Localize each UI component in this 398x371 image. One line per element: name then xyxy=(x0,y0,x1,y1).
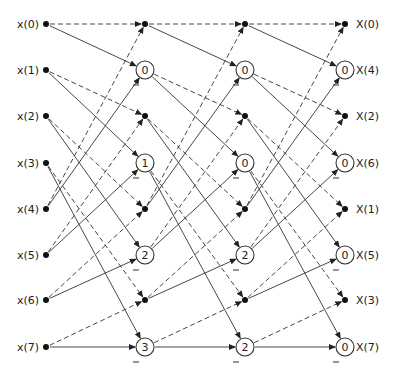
twiddle-exponent: 0 xyxy=(242,157,249,170)
node-dot xyxy=(43,206,49,212)
fft-flow-graph: 012300220000 x(0)x(1)x(2)x(3)x(4)x(5)x(6… xyxy=(0,0,398,371)
node-dot xyxy=(43,21,49,27)
input-label: x(6) xyxy=(17,294,39,307)
solid-edge xyxy=(247,119,339,247)
twiddle-exponent: 2 xyxy=(242,249,249,262)
solid-edge xyxy=(147,119,239,247)
solid-edge xyxy=(149,259,236,298)
twiddle-exponent: 2 xyxy=(242,341,249,354)
twiddle-exponent: 0 xyxy=(342,341,349,354)
dashed-edge xyxy=(151,119,243,247)
solid-edge xyxy=(149,26,236,66)
node-dot xyxy=(242,113,248,119)
dashed-edge xyxy=(50,72,142,115)
dashed-edge xyxy=(48,28,143,206)
solid-edge xyxy=(150,172,240,338)
output-label: X(2) xyxy=(356,110,379,123)
node-dot xyxy=(242,206,248,212)
solid-edge xyxy=(48,119,139,247)
output-label: X(5) xyxy=(356,249,379,262)
node-dot xyxy=(43,252,49,258)
twiddle-exponent: 0 xyxy=(342,249,349,262)
twiddle-exponent: 0 xyxy=(342,157,349,170)
output-label: X(0) xyxy=(356,18,379,31)
output-label: X(6) xyxy=(356,157,379,170)
dashed-edge xyxy=(151,171,243,297)
twiddle-exponent: 3 xyxy=(142,341,149,354)
input-label: x(2) xyxy=(17,110,39,123)
dashed-edge xyxy=(154,302,241,343)
node-dot xyxy=(142,297,148,303)
solid-edge xyxy=(147,78,239,206)
node-dot xyxy=(43,113,49,119)
input-label: x(5) xyxy=(17,249,39,262)
twiddle-exponent: 0 xyxy=(142,64,149,77)
solid-edge xyxy=(48,167,140,339)
dashed-edge xyxy=(49,119,142,207)
output-label: X(3) xyxy=(356,294,379,307)
node-dot xyxy=(43,67,49,73)
twiddle-exponent: 0 xyxy=(242,64,249,77)
dashed-edge xyxy=(251,171,343,297)
input-label: x(7) xyxy=(17,341,39,354)
node-dot xyxy=(342,113,348,119)
node-dot xyxy=(43,344,49,350)
solid-edge xyxy=(48,78,139,206)
input-label: x(3) xyxy=(17,157,39,170)
solid-edge xyxy=(249,259,336,298)
solid-edge xyxy=(247,78,339,206)
node-dot xyxy=(142,113,148,119)
node-dot xyxy=(43,160,49,166)
twiddle-exponent: 1 xyxy=(142,157,149,170)
dashed-edge xyxy=(248,119,342,207)
dashed-edge xyxy=(148,119,242,207)
nodes: 012300220000 xyxy=(43,21,354,362)
twiddle-exponent: 0 xyxy=(342,64,349,77)
twiddle-exponent: 2 xyxy=(142,249,149,262)
edges xyxy=(48,24,343,347)
labels: x(0)x(1)x(2)x(3)x(4)x(5)x(6)x(7)X(0)X(4)… xyxy=(17,18,379,354)
solid-edge xyxy=(49,73,138,156)
node-dot xyxy=(342,297,348,303)
solid-edge xyxy=(50,26,136,66)
input-label: x(4) xyxy=(17,203,39,216)
dashed-edge xyxy=(254,302,341,343)
node-dot xyxy=(342,206,348,212)
output-label: X(7) xyxy=(356,341,379,354)
node-dot xyxy=(342,21,348,27)
dashed-edge xyxy=(50,302,142,346)
solid-edge xyxy=(250,172,340,338)
solid-edge xyxy=(50,259,136,298)
input-label: x(0) xyxy=(17,18,39,31)
node-dot xyxy=(242,21,248,27)
node-dot xyxy=(142,206,148,212)
output-label: X(1) xyxy=(356,203,379,216)
node-dot xyxy=(142,21,148,27)
node-dot xyxy=(43,297,49,303)
dashed-edge xyxy=(251,119,343,247)
solid-edge xyxy=(249,26,336,66)
dashed-edge xyxy=(254,74,341,114)
input-label: x(1) xyxy=(17,64,39,77)
output-label: X(4) xyxy=(356,64,379,77)
node-dot xyxy=(242,297,248,303)
dashed-edge xyxy=(154,74,241,114)
